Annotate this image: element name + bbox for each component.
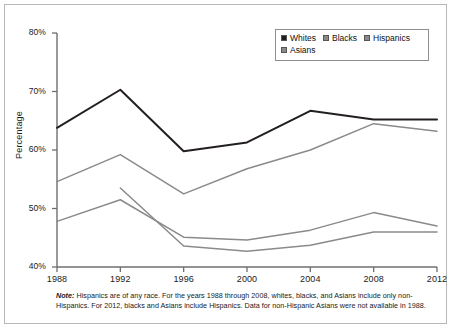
x-tick-1996: 1996: [164, 274, 204, 284]
legend-label: Hispanics: [373, 33, 410, 43]
chart-legend: WhitesBlacksHispanicsAsians: [275, 29, 429, 61]
series-line-whites: [57, 90, 437, 151]
legend-item-blacks[interactable]: Blacks: [323, 33, 357, 43]
chart-axes: [52, 33, 437, 272]
figure-note: Note: Hispanics are of any race. For the…: [56, 291, 442, 310]
x-tick-2000: 2000: [227, 274, 267, 284]
legend-item-hispanics[interactable]: Hispanics: [364, 33, 410, 43]
x-tick-1988: 1988: [37, 274, 77, 284]
x-tick-1992: 1992: [100, 274, 140, 284]
legend-label: Whites: [290, 33, 316, 43]
y-tick-40: 40%: [18, 261, 46, 271]
y-axis-title: Percentage: [14, 95, 24, 175]
legend-swatch-icon: [281, 35, 287, 41]
legend-label: Blacks: [332, 33, 357, 43]
legend-swatch-icon: [281, 47, 287, 53]
series-line-hispanics: [57, 200, 437, 240]
note-label: Note:: [56, 291, 74, 300]
x-tick-2012: 2012: [417, 274, 454, 284]
legend-item-whites[interactable]: Whites: [281, 33, 316, 43]
y-tick-80: 80%: [18, 27, 46, 37]
y-tick-50: 50%: [18, 203, 46, 213]
x-tick-2004: 2004: [290, 274, 330, 284]
x-tick-2008: 2008: [354, 274, 394, 284]
legend-item-asians[interactable]: Asians: [281, 45, 316, 55]
legend-swatch-icon: [364, 35, 370, 41]
series-line-asians: [120, 188, 437, 251]
figure-container: 80%70%60%50%40% 198819921996200020042008…: [0, 0, 454, 331]
legend-label: Asians: [290, 45, 316, 55]
series-line-blacks: [57, 124, 437, 194]
chart-series: [57, 90, 437, 251]
line-chart: 80%70%60%50%40% 198819921996200020042008…: [0, 0, 454, 331]
y-tick-70: 70%: [18, 86, 46, 96]
note-text: Hispanics are of any race. For the years…: [56, 291, 426, 310]
legend-swatch-icon: [323, 35, 329, 41]
